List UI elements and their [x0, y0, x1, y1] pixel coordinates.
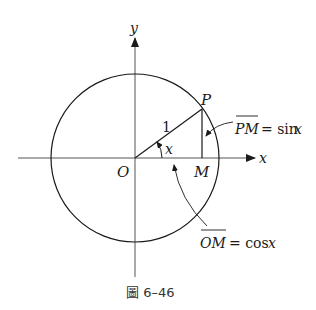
- sin-var: x: [294, 121, 302, 137]
- cos-lhs: OM: [200, 235, 226, 251]
- point-m-label: M: [193, 163, 210, 181]
- sin-annotation: PM = sin x: [234, 116, 302, 137]
- y-axis-label: y: [129, 20, 139, 36]
- figure-caption: 圖 6–46: [126, 285, 174, 300]
- point-p-label: P: [200, 91, 212, 109]
- sin-rhs: = sin: [261, 121, 298, 137]
- sin-pointer-arrow: [206, 122, 233, 136]
- sin-lhs: PM: [234, 121, 259, 137]
- angle-arc: [157, 142, 162, 158]
- cos-var: x: [268, 235, 276, 251]
- unit-circle-diagram: y x O P M 1 x PM = sin x OM = cos x 圖 6–…: [0, 0, 316, 310]
- cos-rhs: = cos: [229, 235, 269, 251]
- x-axis-label: x: [259, 150, 267, 166]
- cos-annotation: OM = cos x: [200, 230, 276, 251]
- origin-label: O: [117, 163, 129, 181]
- radius-label: 1: [162, 119, 171, 135]
- angle-label: x: [165, 141, 173, 157]
